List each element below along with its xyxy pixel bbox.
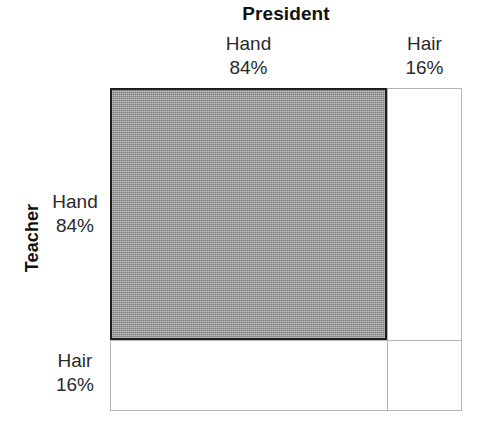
cell-teacher-hand-president-hand bbox=[110, 88, 387, 340]
cell-teacher-hair-president-hand bbox=[110, 340, 387, 411]
column-header-hair-label: Hair bbox=[387, 32, 462, 56]
column-group-title: President bbox=[110, 2, 462, 25]
column-header-hand: Hand 84% bbox=[110, 32, 387, 80]
row-header-hand: Hand 84% bbox=[44, 190, 106, 238]
row-group-title: Teacher bbox=[22, 188, 42, 288]
cell-teacher-hair-president-hair bbox=[387, 340, 462, 411]
column-header-hair: Hair 16% bbox=[387, 32, 462, 80]
row-header-hair-label: Hair bbox=[44, 349, 106, 373]
column-header-hand-percent: 84% bbox=[110, 56, 387, 80]
column-header-hand-label: Hand bbox=[110, 32, 387, 56]
mosaic-chart-figure: President Hand 84% Hair 16% Teacher Hand… bbox=[0, 0, 482, 434]
row-header-hand-percent: 84% bbox=[44, 214, 106, 238]
row-header-hair-percent: 16% bbox=[44, 373, 106, 397]
row-header-hair: Hair 16% bbox=[44, 349, 106, 397]
cell-teacher-hand-president-hair bbox=[387, 88, 462, 340]
plot-grid bbox=[110, 88, 462, 411]
column-header-hair-percent: 16% bbox=[387, 56, 462, 80]
row-header-hand-label: Hand bbox=[44, 190, 106, 214]
